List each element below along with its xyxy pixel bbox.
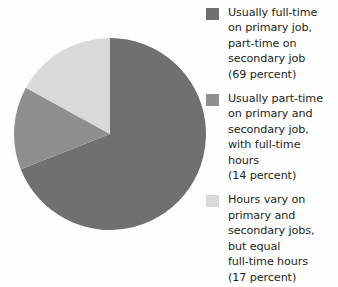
legend-swatch-hours-vary xyxy=(206,195,219,207)
legend-label-full-time-primary: Usually full-time on primary job, part-t… xyxy=(228,5,338,82)
legend-item-hours-vary: Hours vary on primary and secondary jobs… xyxy=(206,192,338,284)
legend-label-hours-vary: Hours vary on primary and secondary jobs… xyxy=(228,192,338,284)
pie-svg xyxy=(14,38,206,230)
legend-item-part-time-both: Usually part-time on primary and seconda… xyxy=(206,91,338,183)
legend-swatch-full-time-primary xyxy=(206,8,219,20)
pie-slices xyxy=(14,38,206,230)
legend-swatch-part-time-both xyxy=(206,94,219,106)
legend-item-full-time-primary: Usually full-time on primary job, part-t… xyxy=(206,5,338,82)
legend-label-part-time-both: Usually part-time on primary and seconda… xyxy=(228,91,338,183)
pie-chart-graphic xyxy=(14,38,206,230)
chart-legend: Usually full-time on primary job, part-t… xyxy=(206,5,338,287)
